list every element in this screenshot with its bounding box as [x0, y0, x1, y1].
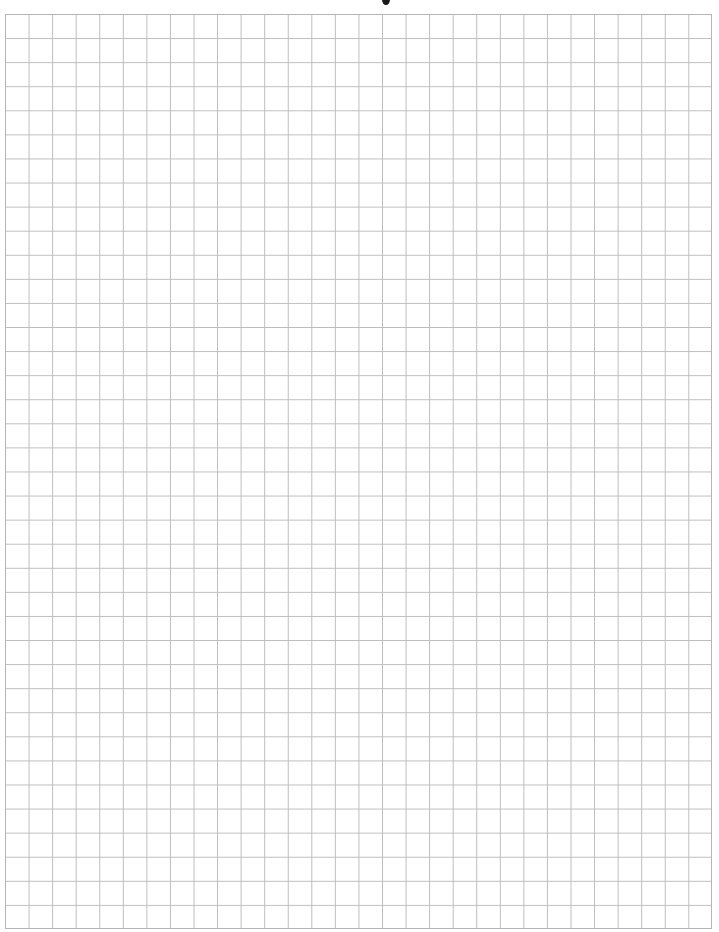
graph-paper-grid [5, 14, 712, 929]
cropped-title-glyph [382, 0, 390, 5]
